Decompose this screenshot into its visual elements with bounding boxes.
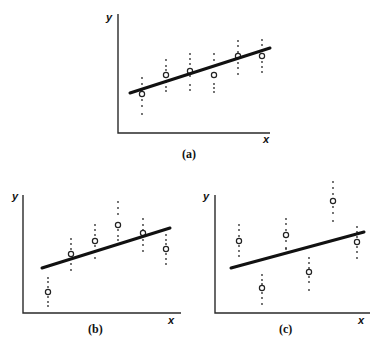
observation-dot <box>308 289 310 291</box>
observation-dot <box>261 297 263 299</box>
observation-dot <box>94 229 96 231</box>
observation-dot <box>47 305 49 307</box>
observation-dot <box>142 244 144 246</box>
observation-dot <box>141 99 143 101</box>
observation-dot <box>237 73 239 75</box>
data-group <box>139 77 144 115</box>
panel-caption: (a) <box>182 147 196 161</box>
observation-dot <box>238 245 240 247</box>
data-group <box>330 181 335 222</box>
observation-dot <box>237 40 239 42</box>
observation-dot <box>356 236 358 238</box>
observation-dot <box>117 201 119 203</box>
observation-dot <box>308 257 310 259</box>
x-axis-label: x <box>357 314 365 326</box>
observation-dot <box>165 234 167 236</box>
observation-dot <box>332 206 334 208</box>
observation-dot <box>47 301 49 303</box>
group-mean-marker <box>139 91 144 96</box>
observation-dot <box>308 267 310 269</box>
x-axis-label: x <box>167 314 175 326</box>
group-mean-marker <box>163 246 168 251</box>
data-group <box>306 257 311 291</box>
observation-dot <box>165 69 167 71</box>
data-group <box>163 234 168 265</box>
observation-dot <box>47 286 49 288</box>
observation-dot <box>141 105 143 107</box>
panel-a: yx(a) <box>105 11 270 161</box>
group-mean-marker <box>163 72 168 77</box>
observation-dot <box>165 59 167 61</box>
observation-dot <box>261 71 263 73</box>
observation-dot <box>142 239 144 241</box>
observation-dot <box>238 224 240 226</box>
observation-dot <box>237 62 239 64</box>
observation-dot <box>238 229 240 231</box>
observation-dot <box>117 229 119 231</box>
observation-dot <box>213 59 215 61</box>
group-mean-marker <box>68 251 73 256</box>
y-axis-label: y <box>11 190 19 202</box>
observation-dot <box>117 213 119 215</box>
observation-dot <box>238 255 240 257</box>
observation-dot <box>189 89 191 91</box>
panel-caption: (b) <box>88 322 103 336</box>
observation-dot <box>165 90 167 92</box>
observation-dot <box>70 263 72 265</box>
data-group <box>163 59 168 92</box>
group-mean-marker <box>92 238 97 243</box>
observation-dot <box>261 66 263 68</box>
observation-dot <box>308 281 310 283</box>
data-group <box>92 224 97 259</box>
group-mean-marker <box>236 238 241 243</box>
observation-dot <box>165 263 167 265</box>
y-axis-label: y <box>202 190 210 202</box>
observation-dot <box>285 229 287 231</box>
observation-dot <box>285 248 287 250</box>
data-group <box>211 53 216 93</box>
observation-dot <box>332 220 334 222</box>
observation-dot <box>47 281 49 283</box>
observation-dot <box>165 86 167 88</box>
observation-dot <box>141 77 143 79</box>
axes <box>215 195 370 313</box>
group-mean-marker <box>259 53 264 58</box>
group-mean-marker <box>259 285 264 290</box>
group-mean-marker <box>115 222 120 227</box>
observation-dot <box>213 87 215 89</box>
observation-dot <box>213 91 215 93</box>
data-group <box>68 238 73 271</box>
observation-dot <box>237 67 239 69</box>
axes <box>23 195 181 313</box>
observation-dot <box>238 250 240 252</box>
observation-dot <box>165 239 167 241</box>
x-axis-label: x <box>262 133 270 145</box>
observation-dot <box>165 253 167 255</box>
observation-dot <box>142 218 144 220</box>
observation-dot <box>356 251 358 253</box>
observation-dot <box>70 238 72 240</box>
group-mean-marker <box>306 269 311 274</box>
observation-dot <box>261 283 263 285</box>
data-group <box>283 218 288 250</box>
observation-dot <box>285 223 287 225</box>
regression-line <box>42 228 170 268</box>
data-group <box>45 277 50 307</box>
observation-dot <box>94 234 96 236</box>
observation-dot <box>332 212 334 214</box>
observation-dot <box>261 279 263 281</box>
observation-dot <box>165 258 167 260</box>
observation-dot <box>117 207 119 209</box>
observation-dot <box>261 292 263 294</box>
observation-dot <box>308 262 310 264</box>
observation-dot <box>165 65 167 67</box>
observation-dot <box>356 246 358 248</box>
observation-dot <box>189 53 191 55</box>
y-axis-label: y <box>105 11 113 23</box>
observation-dot <box>141 83 143 85</box>
observation-dot <box>142 224 144 226</box>
observation-dot <box>261 303 263 305</box>
observation-dot <box>213 53 215 55</box>
observation-dot <box>47 296 49 298</box>
observation-dot <box>94 245 96 247</box>
